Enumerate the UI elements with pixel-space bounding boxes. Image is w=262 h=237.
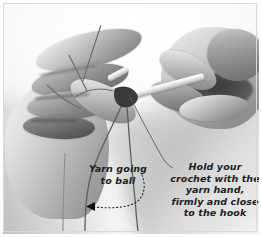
left-knuckle-crease-3 (31, 119, 77, 122)
left-hand-yarn-hand (5, 29, 137, 219)
annotation-line: Hold your (169, 161, 259, 173)
annotation-hold-your-crochet: Hold your crochet with the yarn hand, fi… (169, 161, 259, 219)
annotation-line: yarn hand, (169, 184, 259, 196)
right-hand-hook-hand (151, 21, 259, 141)
photo-plate: Yarn going to ball Hold your crochet wit… (3, 3, 259, 234)
annotation-line: Yarn going (87, 163, 149, 175)
annotation-line: firmly and close (169, 196, 259, 208)
annotation-line: to the hook (169, 207, 259, 219)
annotation-line: to ball (87, 175, 149, 187)
annotation-yarn-going-to-ball: Yarn going to ball (87, 163, 149, 186)
crochet-instruction-figure: Yarn going to ball Hold your crochet wit… (0, 0, 262, 237)
annotation-line: crochet with the (169, 173, 259, 185)
